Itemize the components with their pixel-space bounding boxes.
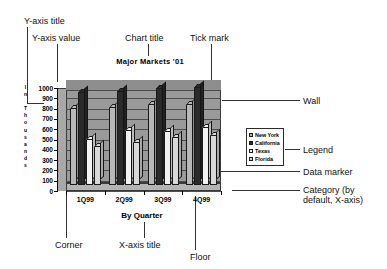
- legend-swatch: [249, 149, 253, 153]
- legend-label: New York: [255, 131, 279, 139]
- legend-item[interactable]: Florida: [249, 155, 281, 163]
- legend-item[interactable]: California: [249, 139, 281, 147]
- y-axis-tick-mark: [54, 129, 58, 130]
- y-axis-title-letter: a: [21, 141, 30, 148]
- annotation-data-marker: Data marker: [303, 167, 353, 177]
- data-marker-side-face: [178, 130, 182, 180]
- x-axis-category-label: 1Q99: [65, 196, 105, 203]
- chart-title: Major Markets '01: [100, 57, 200, 66]
- y-axis-title-letter: u: [21, 127, 30, 134]
- bar-group: [182, 82, 221, 185]
- y-axis-tick-mark: [54, 191, 58, 192]
- bar-group: [144, 82, 183, 185]
- legend-swatch: [249, 133, 253, 137]
- leader-line-chart-title: [148, 44, 149, 56]
- bar-group: [66, 82, 105, 185]
- data-marker-side-face: [100, 139, 104, 180]
- x-axis-tick-mark: [221, 191, 222, 195]
- chart-plot-area: 10009008007006005004003002001000 In Thou…: [57, 80, 221, 193]
- x-axis-tick-mark: [66, 191, 67, 195]
- y-axis-value: 1000: [31, 85, 53, 92]
- y-axis-tick-mark: [54, 98, 58, 99]
- y-axis-value: 0: [31, 188, 53, 195]
- y-axis-title-letter: I: [21, 84, 30, 91]
- data-marker[interactable]: [186, 104, 193, 185]
- annotation-legend: Legend: [303, 145, 333, 155]
- data-marker[interactable]: [156, 88, 163, 185]
- legend-label: California: [255, 139, 280, 147]
- y-axis-tick-mark: [54, 170, 58, 171]
- legend-label: Florida: [255, 155, 273, 163]
- y-axis-value: 800: [31, 105, 53, 112]
- legend-swatch: [249, 157, 253, 161]
- leader-line-legend: [285, 149, 300, 150]
- y-axis-title-letter: h: [21, 112, 30, 119]
- y-axis-title-letter: T: [21, 105, 30, 112]
- leader-line-floor: [195, 196, 196, 250]
- y-axis-title: In Thousands: [21, 84, 30, 169]
- x-axis-tick-mark: [182, 191, 183, 195]
- y-axis-value: 200: [31, 167, 53, 174]
- x-axis-category-label: 3Q99: [143, 196, 183, 203]
- data-marker[interactable]: [210, 135, 217, 185]
- x-axis-tick-mark: [105, 191, 106, 195]
- y-axis-title-letter: s: [21, 162, 30, 169]
- y-axis-value: 300: [31, 157, 53, 164]
- legend-swatch: [249, 141, 253, 145]
- x-axis-category-label: 2Q99: [104, 196, 144, 203]
- data-marker[interactable]: [172, 137, 179, 185]
- annotation-x-axis-title: X-axis title: [119, 240, 161, 250]
- data-marker[interactable]: [164, 131, 171, 185]
- annotation-category: Category (by default, X-axis): [303, 185, 363, 205]
- data-marker[interactable]: [148, 104, 155, 185]
- y-axis-value: 600: [31, 126, 53, 133]
- chart-legend[interactable]: New YorkCaliforniaTexasFlorida: [246, 128, 284, 166]
- data-marker[interactable]: [94, 146, 101, 185]
- annotation-y-axis-value: Y-axis value: [32, 33, 80, 43]
- y-axis-value: 900: [31, 95, 53, 102]
- annotation-corner: Corner: [55, 240, 83, 250]
- data-marker[interactable]: [109, 107, 116, 185]
- data-marker[interactable]: [194, 87, 201, 185]
- y-axis-value: 100: [31, 177, 53, 184]
- y-axis-title-letter: d: [21, 155, 30, 162]
- legend-item[interactable]: Texas: [249, 147, 281, 155]
- y-axis-tick-mark: [54, 150, 58, 151]
- y-axis-tick-mark: [54, 88, 58, 89]
- y-axis-tick-mark: [54, 119, 58, 120]
- annotation-y-axis-title: Y-axis title: [24, 16, 65, 26]
- leader-line-data-marker: [215, 171, 300, 172]
- leader-line-x-axis-title: [144, 222, 145, 238]
- leader-line-wall: [222, 100, 300, 101]
- data-marker[interactable]: [78, 92, 85, 185]
- y-axis-title-letter: [21, 98, 30, 105]
- x-axis-category-label: 4Q99: [182, 196, 222, 203]
- y-axis-value: 400: [31, 146, 53, 153]
- y-axis-title-letter: s: [21, 134, 30, 141]
- y-axis-tick-mark: [54, 160, 58, 161]
- data-marker[interactable]: [117, 91, 124, 185]
- chart-corner-sidewall: [57, 88, 66, 191]
- y-axis-title-letter: o: [21, 119, 30, 126]
- y-axis-title-letter: n: [21, 148, 30, 155]
- y-axis-value: 500: [31, 136, 53, 143]
- data-marker[interactable]: [70, 108, 77, 185]
- data-marker[interactable]: [133, 142, 140, 185]
- x-axis-title: By Quarter: [97, 211, 187, 220]
- y-axis-value: 700: [31, 115, 53, 122]
- diagram-canvas: Y-axis title Y-axis value Chart title Ti…: [0, 0, 387, 269]
- y-axis-title-letter: n: [21, 91, 30, 98]
- legend-item[interactable]: New York: [249, 131, 281, 139]
- legend-label: Texas: [255, 147, 270, 155]
- data-marker-side-face: [139, 135, 143, 180]
- leader-line-category: [232, 190, 300, 191]
- annotation-tick-mark: Tick mark: [190, 33, 229, 43]
- annotation-floor: Floor: [190, 252, 211, 262]
- y-axis-tick-mark: [54, 181, 58, 182]
- x-axis-tick-mark: [144, 191, 145, 195]
- bar-group: [105, 82, 144, 185]
- data-marker[interactable]: [125, 130, 132, 185]
- y-axis-tick-mark: [54, 140, 58, 141]
- data-marker[interactable]: [86, 139, 93, 185]
- y-axis-tick-mark: [54, 109, 58, 110]
